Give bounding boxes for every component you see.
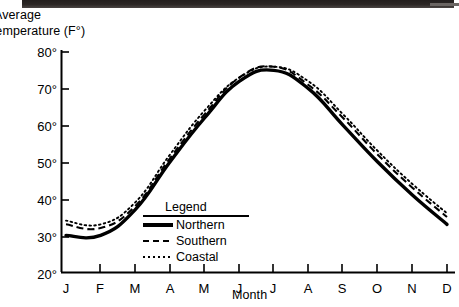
legend-title: Legend xyxy=(143,200,255,215)
line-chart: Average Temperature (F°) 80° 70° 60° 50°… xyxy=(0,0,459,307)
legend-swatch-dotted-icon xyxy=(143,252,173,262)
legend-item-coastal: Coastal xyxy=(143,250,255,265)
legend-swatch-solid-icon xyxy=(143,220,173,230)
legend-label-southern: Southern xyxy=(176,235,227,248)
legend-label-northern: Northern xyxy=(176,219,225,232)
legend-item-southern: Southern xyxy=(143,234,255,249)
x-axis-ticks xyxy=(100,264,447,272)
legend-divider xyxy=(143,215,249,217)
legend: Legend Northern Southern Coastal xyxy=(143,200,255,265)
legend-item-northern: Northern xyxy=(143,218,255,233)
series-line-northern xyxy=(66,70,447,238)
series-line-coastal xyxy=(66,67,447,226)
legend-label-coastal: Coastal xyxy=(176,251,218,264)
legend-swatch-dashed-icon xyxy=(143,236,173,246)
series-line-southern xyxy=(66,66,447,229)
